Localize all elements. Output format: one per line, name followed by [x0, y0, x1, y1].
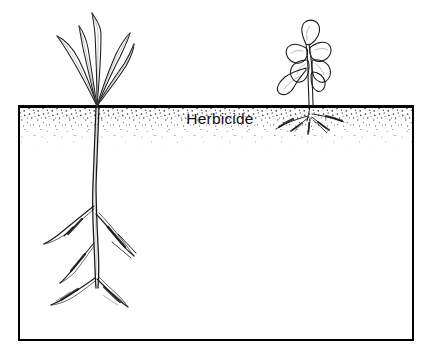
herbicide-label-text: Herbicide [186, 110, 253, 127]
herbicide-stipple-faint [20, 139, 412, 147]
broadleaf-leaf-upper-right [310, 42, 331, 61]
broadleaf-leaf-apex [302, 20, 320, 45]
grass-leaf-5 [97, 44, 134, 106]
herbicide-label: Herbicide [186, 110, 253, 127]
broadleaf-leaf-mid-right [312, 60, 330, 83]
grass-leaf-1 [57, 36, 97, 106]
herbicide-stipple-light [20, 130, 412, 139]
grass-leaf-4 [97, 33, 130, 106]
diagram-canvas: Herbicide [0, 0, 430, 355]
herbicide-diagram: Herbicide [0, 0, 430, 355]
